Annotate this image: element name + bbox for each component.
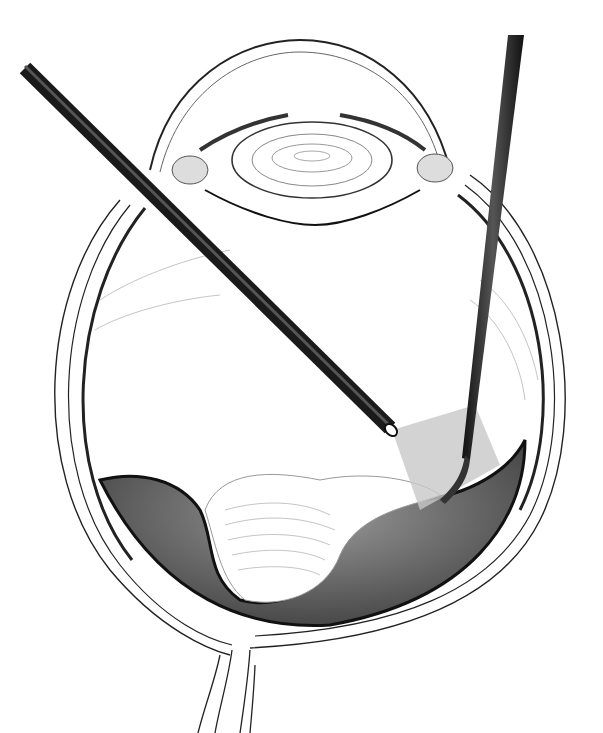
ciliary-body-left <box>172 156 208 184</box>
light-pipe-instrument <box>25 66 399 438</box>
ciliary-body-right <box>417 154 453 182</box>
lens <box>232 122 392 198</box>
eye-illustration <box>0 0 603 733</box>
optic-nerve <box>198 650 255 733</box>
